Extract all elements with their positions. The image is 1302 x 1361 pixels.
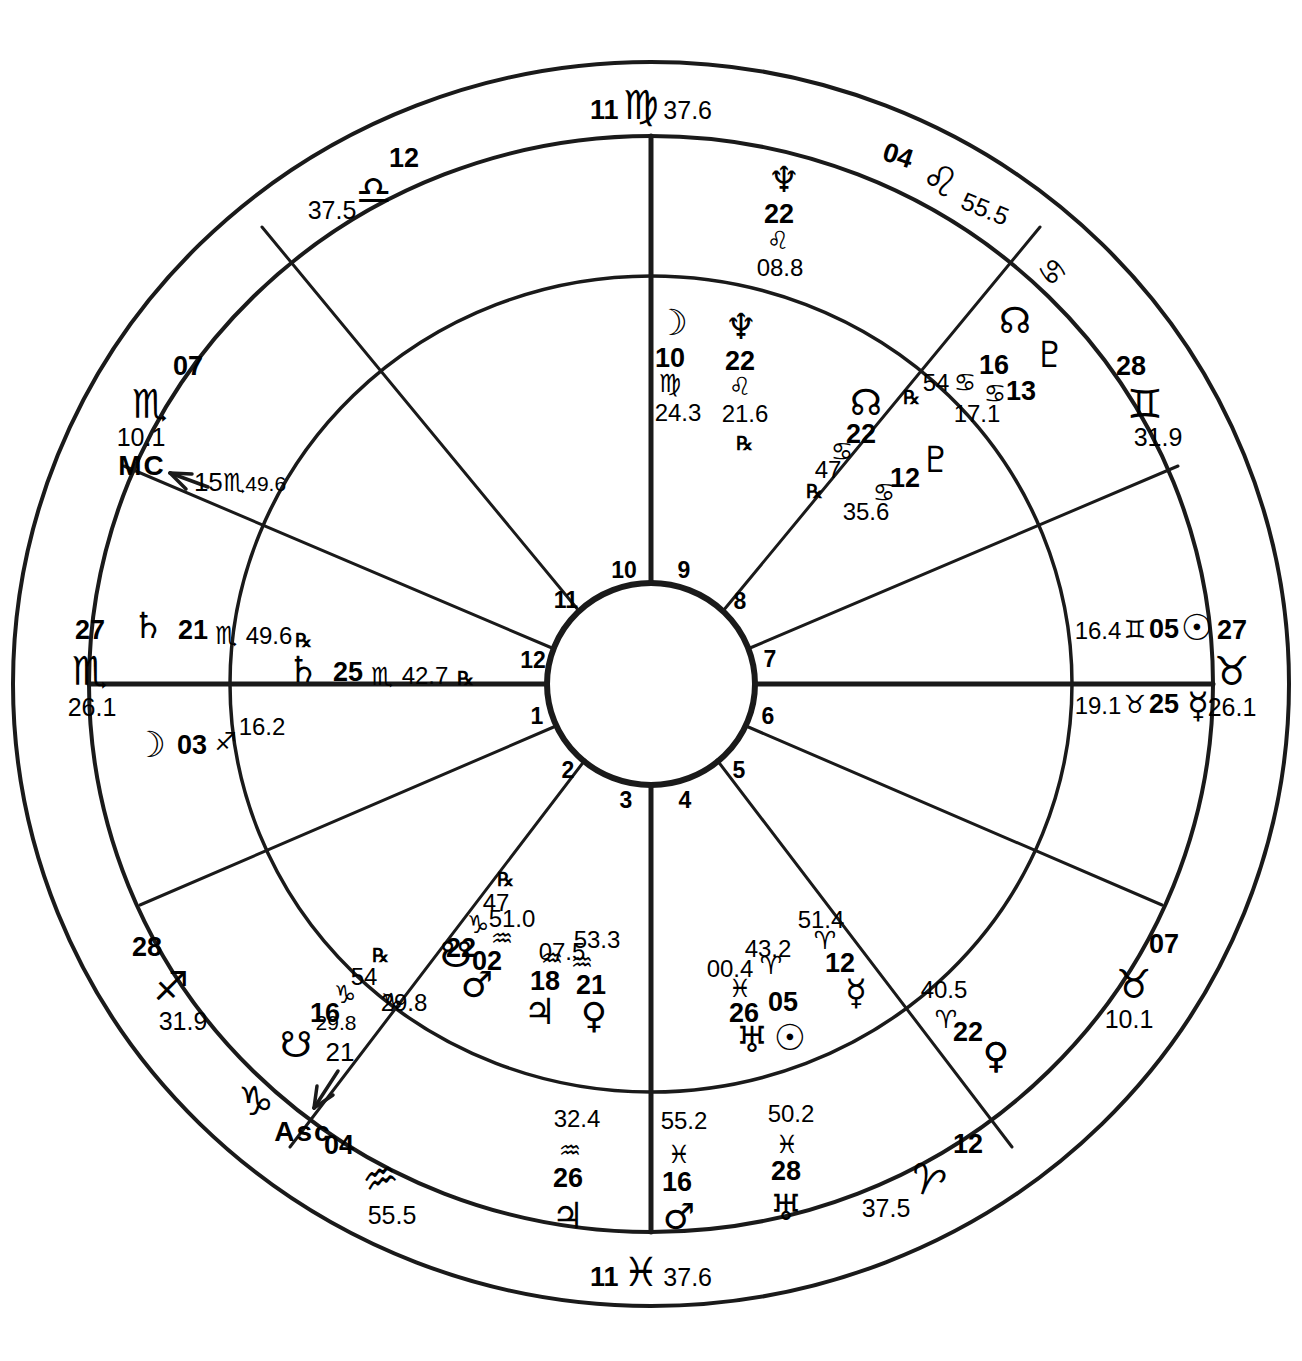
uranus-icon-outer: ♅ bbox=[770, 1190, 802, 1226]
aquarius-icon-jupiter-outer: ♒ bbox=[559, 1138, 581, 1163]
pluto-outer-minutes: 17.1 bbox=[954, 402, 1001, 426]
house-number-5: 5 bbox=[733, 759, 746, 782]
house-number-6: 6 bbox=[762, 705, 775, 728]
house-number-1: 1 bbox=[531, 705, 544, 728]
cusp-7-minutes: 26.1 bbox=[1208, 695, 1257, 720]
north-node-icon-inner: ☊ bbox=[850, 385, 882, 421]
neptune-icon-inner: ♆ bbox=[725, 309, 757, 345]
mercury-inner-minutes: 51.4 bbox=[798, 908, 845, 932]
wheel-graphics bbox=[0, 0, 1302, 1361]
mars-icon-outer: ♂ bbox=[663, 1199, 695, 1235]
south-node-icon-outer: ☋ bbox=[280, 1027, 312, 1063]
neptune-inner-degree: 22 bbox=[725, 348, 755, 375]
moon-outer-degree: 03 bbox=[177, 732, 207, 759]
saturn-outer-degree: 21 bbox=[178, 617, 208, 644]
mars-outer-minutes: 55.2 bbox=[661, 1109, 708, 1133]
virgo-icon-moon-inner: ♍ bbox=[659, 371, 681, 396]
sagittarius-icon-moon-outer: ♐ bbox=[215, 729, 237, 754]
sun-outer-degree: 05 bbox=[1149, 616, 1179, 643]
cusp-6-minutes: 10.1 bbox=[1105, 1007, 1154, 1032]
cusp-12-minutes: 10.1 bbox=[117, 425, 166, 450]
scorpio-icon-1: ♏ bbox=[72, 651, 108, 691]
capricorn-icon-asc: ♑ bbox=[238, 1081, 274, 1121]
sun-inner-degree: 05 bbox=[768, 989, 798, 1016]
house-number-11: 11 bbox=[554, 589, 578, 612]
pluto-icon-inner: ♇ bbox=[920, 442, 952, 478]
cusp-11-minutes: 37.5 bbox=[308, 198, 357, 223]
moon-icon-outer: ☽ bbox=[134, 727, 166, 763]
astrology-chart-wheel: 10 9 11 8 12 7 1 6 2 5 3 4 11 ♍ 37.6 11 … bbox=[0, 0, 1302, 1361]
pisces-icon-mars-outer: ♓ bbox=[668, 1142, 690, 1167]
neptune-outer-degree: 22 bbox=[764, 201, 794, 228]
cusp-4-degree: 11 bbox=[590, 1262, 619, 1292]
scorpio-icon-12: ♏ bbox=[132, 384, 168, 424]
moon-inner-degree: 10 bbox=[655, 345, 685, 372]
libra-icon: ♎ bbox=[356, 170, 392, 210]
uranus-outer-degree: 28 bbox=[771, 1158, 801, 1185]
pisces-icon-uranus-outer: ♓ bbox=[776, 1132, 798, 1157]
north-node-inner-retrograde: ℞ bbox=[806, 482, 823, 501]
pluto-icon-outer: ♇ bbox=[1034, 337, 1066, 373]
sun-icon-outer: ☉ bbox=[1181, 610, 1213, 646]
neptune-outer-minutes: 08.8 bbox=[757, 256, 804, 280]
neptune-inner-retrograde: ℞ bbox=[736, 434, 753, 453]
mc-minutes: 49.6 bbox=[245, 472, 286, 495]
saturn-icon-inner: ♄ bbox=[287, 652, 319, 688]
taurus-icon-7: ♉ bbox=[1214, 651, 1250, 691]
leo-icon-neptune-inner: ♌ bbox=[729, 374, 751, 399]
house-number-12: 12 bbox=[520, 649, 546, 672]
asc-degree: 21 bbox=[326, 1039, 355, 1065]
scorpio-icon-saturn-outer: ♏ bbox=[215, 623, 237, 648]
saturn-inner-retrograde: ℞ bbox=[457, 669, 474, 688]
taurus-icon-mercury-outer: ♉ bbox=[1124, 692, 1146, 717]
scorpio-icon-saturn-inner: ♏ bbox=[371, 664, 393, 689]
cusp-6-degree: 07 bbox=[1149, 931, 1179, 958]
venus-inner-aq-minutes: 53.3 bbox=[574, 928, 621, 952]
neptune-inner-minutes: 21.6 bbox=[722, 402, 769, 426]
uranus-inner-degree: 26 bbox=[729, 1000, 759, 1027]
house-number-8: 8 bbox=[734, 590, 747, 613]
cusp-7-degree: 27 bbox=[1217, 617, 1247, 644]
leo-icon-neptune-outer: ♌ bbox=[767, 228, 789, 253]
cusp-5-degree: 12 bbox=[953, 1131, 983, 1158]
cusp-8-minutes: 31.9 bbox=[1134, 425, 1183, 450]
cusp-11-degree: 12 bbox=[389, 145, 419, 172]
pluto-inner-minutes: 35.6 bbox=[843, 500, 890, 524]
sagittarius-icon: ♐ bbox=[153, 966, 189, 1006]
uranus-outer-minutes: 50.2 bbox=[768, 1102, 815, 1126]
pluto-outer-degree: 13 bbox=[1006, 378, 1036, 405]
house-number-9: 9 bbox=[678, 559, 691, 582]
saturn-outer-minutes: 49.6 bbox=[246, 624, 293, 648]
jupiter-outer-degree: 26 bbox=[553, 1165, 583, 1192]
neptune-icon-outer: ♆ bbox=[768, 162, 800, 198]
cusp-10-minutes: 37.6 bbox=[663, 96, 712, 124]
asc-label: Asc bbox=[274, 1118, 331, 1146]
pisces-icon: ♓ bbox=[623, 1249, 659, 1295]
north-node-icon-outer: ☊ bbox=[999, 303, 1031, 339]
moon-icon-inner: ☽ bbox=[656, 305, 688, 341]
cusp-line-11 bbox=[262, 227, 579, 611]
north-node-outer-degree: 16 bbox=[979, 352, 1009, 379]
sun-outer-minutes: 16.4 bbox=[1075, 619, 1122, 643]
cusp-2-degree: 28 bbox=[132, 934, 162, 961]
asc-offset-minutes: 29.8 bbox=[381, 991, 428, 1015]
mercury-icon-inner: ☿ bbox=[845, 975, 867, 1011]
saturn-inner-minutes: 42.7 bbox=[402, 664, 449, 688]
mc-position: 15♏49.6 bbox=[194, 469, 286, 495]
cusp-8-degree: 28 bbox=[1116, 353, 1146, 380]
moon-inner-minutes: 24.3 bbox=[655, 401, 702, 425]
gemini-icon: ♊ bbox=[1127, 384, 1163, 424]
mars-inner-minutes: 51.0 bbox=[489, 907, 536, 931]
virgo-icon: ♍ bbox=[623, 82, 659, 128]
saturn-icon-outer: ♄ bbox=[132, 608, 164, 644]
cusp-label-4: 11 ♓ 37.6 bbox=[590, 1252, 712, 1292]
scorpio-icon-mc: ♏ bbox=[223, 468, 245, 497]
house-number-7: 7 bbox=[764, 648, 777, 671]
mercury-outer-minutes: 19.1 bbox=[1075, 694, 1122, 718]
inner-hub-circle bbox=[547, 583, 755, 785]
mercury-outer-degree: 25 bbox=[1149, 691, 1179, 718]
mars-outer-degree: 16 bbox=[662, 1169, 692, 1196]
cusp-10-degree: 11 bbox=[590, 95, 619, 125]
sun-icon-inner: ☉ bbox=[774, 1020, 806, 1056]
venus-icon-inner-aquarius: ♀ bbox=[581, 998, 607, 1034]
